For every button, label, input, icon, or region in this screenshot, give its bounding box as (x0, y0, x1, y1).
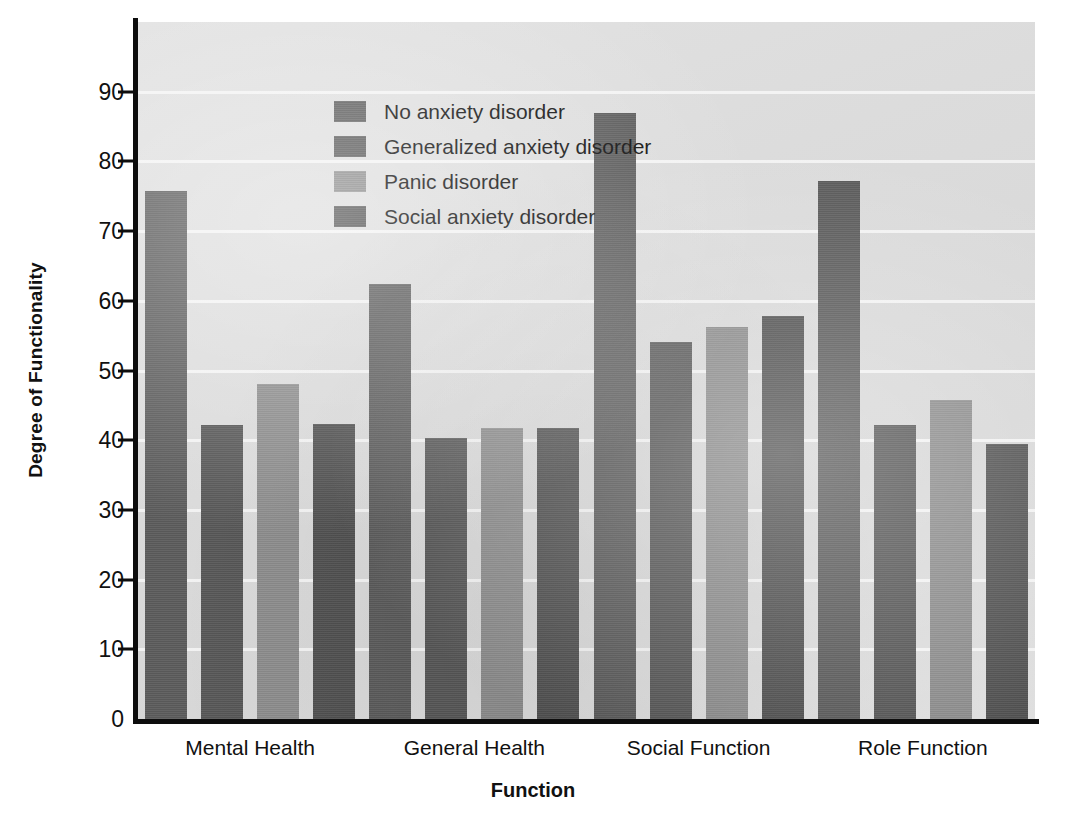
y-axis-tick-mark (118, 578, 138, 581)
bar (762, 316, 804, 719)
x-axis-category-label: Social Function (627, 736, 771, 760)
y-axis-tick-mark (118, 648, 138, 651)
legend-item: Social anxiety disorder (334, 199, 651, 234)
legend-swatch-icon (334, 101, 366, 122)
x-axis-category-label: General Health (404, 736, 545, 760)
legend-item-label: Panic disorder (384, 170, 518, 194)
legend-item-label: No anxiety disorder (384, 100, 565, 124)
y-axis-title-text: Degree of Functionality (25, 262, 47, 478)
plot-area: No anxiety disorderGeneralized anxiety d… (138, 22, 1035, 719)
bar (930, 400, 972, 719)
bar-chart-figure: Degree of Functionality 0102030405060708… (0, 0, 1066, 821)
bar (425, 438, 467, 719)
x-axis-category-label: Mental Health (185, 736, 315, 760)
x-axis-title: Function (0, 779, 1066, 802)
y-axis-tick-mark (118, 369, 138, 372)
bar (481, 428, 523, 719)
legend-item: Generalized anxiety disorder (334, 129, 651, 164)
legend-item: No anxiety disorder (334, 94, 651, 129)
gridline (138, 300, 1035, 303)
legend-item-label: Generalized anxiety disorder (384, 135, 651, 159)
legend-item-label: Social anxiety disorder (384, 205, 595, 229)
legend-item: Panic disorder (334, 164, 651, 199)
legend-swatch-icon (334, 171, 366, 192)
y-axis-tick-label: 0 (111, 706, 124, 733)
y-axis-tick-mark (118, 160, 138, 163)
bar (201, 425, 243, 719)
y-axis-tick-mark (118, 299, 138, 302)
y-axis-title: Degree of Functionality (6, 0, 66, 740)
y-axis-tick-labels: 0102030405060708090 (60, 0, 134, 821)
legend-swatch-icon (334, 206, 366, 227)
y-axis-tick-mark (118, 439, 138, 442)
bar (874, 425, 916, 719)
y-axis-tick-mark (118, 90, 138, 93)
bar (818, 181, 860, 719)
bar (537, 428, 579, 719)
bar (369, 284, 411, 719)
legend-swatch-icon (334, 136, 366, 157)
bar (145, 191, 187, 719)
bar (257, 384, 299, 719)
gridline (138, 370, 1035, 373)
y-axis-tick-mark (118, 230, 138, 233)
x-axis-category-label: Role Function (858, 736, 988, 760)
legend: No anxiety disorderGeneralized anxiety d… (334, 94, 651, 234)
bar (650, 342, 692, 719)
bar (986, 444, 1028, 719)
x-axis-line (133, 719, 1039, 724)
bar (706, 327, 748, 719)
y-axis-tick-mark (118, 508, 138, 511)
bar (313, 424, 355, 719)
